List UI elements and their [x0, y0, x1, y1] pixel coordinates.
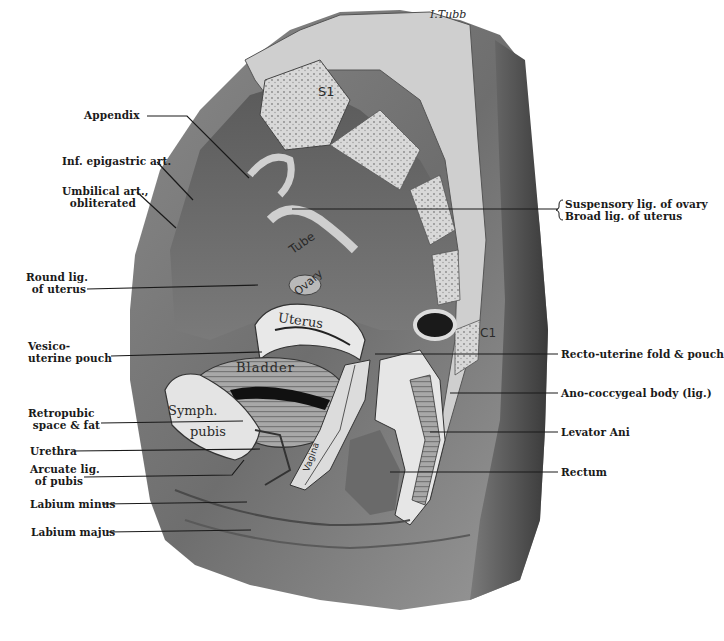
label-urethra: Urethra	[30, 445, 77, 457]
label-round-lig: Round lig.of uterus	[26, 271, 86, 295]
label-arcuate-lig: Arcuate lig.of pubis	[30, 463, 83, 487]
label-broad-lig: Broad lig. of uterus	[565, 210, 682, 222]
label-labium-minus: Labium minus	[30, 498, 115, 510]
label-recto-uterine: Recto-uterine fold & pouch	[561, 348, 724, 360]
label-suspensory-lig: Suspensory lig. of ovary	[565, 198, 708, 210]
label-retropubic-space: Retropubicspace & fat	[28, 407, 100, 431]
label-vesico-uterine-pouch: Vesico-uterine pouch	[28, 340, 110, 364]
label-ano-coccygeal: Ano-coccygeal body (lig.)	[561, 387, 712, 399]
inline-label-symph: Symph.	[168, 403, 217, 418]
label-umbilical-art: Umbilical art.,obliterated	[62, 185, 136, 209]
inline-label-c1: C1	[480, 326, 496, 340]
inline-label-s1: S1	[318, 84, 335, 99]
inline-label-pubis: pubis	[190, 424, 226, 439]
artist-signature: I.Tubb	[430, 8, 466, 21]
label-levator-ani: Levator Ani	[561, 426, 630, 438]
label-labium-majus: Labium majus	[31, 526, 115, 538]
label-appendix: Appendix	[84, 109, 140, 121]
label-rectum: Rectum	[561, 466, 607, 478]
label-inf-epigastric-art: Inf. epigastric art.	[62, 155, 171, 167]
inline-label-bladder: Bladder	[236, 360, 295, 375]
